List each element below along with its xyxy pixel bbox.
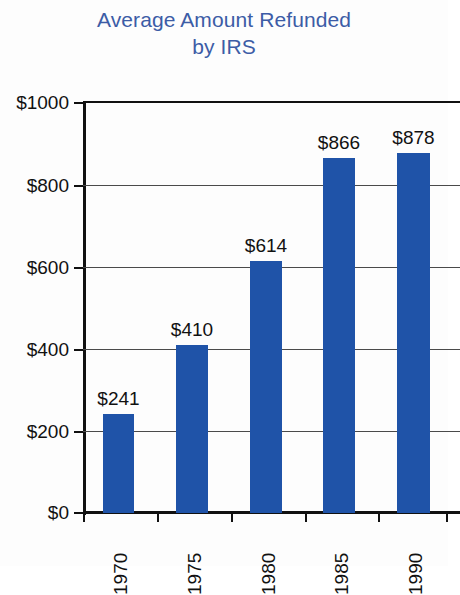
x-tick-label-1975: 1975 — [184, 553, 206, 595]
chart-title: Average Amount Refunded by IRS — [0, 6, 448, 60]
bar-1980[interactable] — [250, 261, 282, 513]
x-tick-label-1990: 1990 — [405, 553, 427, 595]
x-tick-2 — [231, 513, 233, 522]
x-tick-3 — [305, 513, 307, 522]
bar-1990[interactable] — [397, 153, 430, 513]
value-label-1980: $614 — [245, 235, 287, 257]
value-label-1990: $878 — [392, 127, 434, 149]
x-tick-4 — [378, 513, 380, 522]
x-tick-label-1980: 1980 — [258, 553, 280, 595]
bar-1970[interactable] — [103, 414, 134, 513]
value-label-1970: $241 — [97, 388, 139, 410]
x-tick-5 — [446, 513, 448, 522]
chart-title-line-2: by IRS — [0, 33, 448, 60]
x-tick-1 — [157, 513, 159, 522]
x-tick-label-1970: 1970 — [110, 553, 132, 595]
bars-layer — [0, 103, 460, 513]
bar-1975[interactable] — [176, 345, 208, 513]
x-tick-0 — [83, 513, 85, 522]
value-label-1975: $410 — [171, 319, 213, 341]
x-tick-label-1985: 1985 — [331, 553, 353, 595]
value-label-1985: $866 — [318, 132, 360, 154]
chart-title-line-1: Average Amount Refunded — [0, 6, 448, 33]
bar-1985[interactable] — [323, 158, 355, 513]
